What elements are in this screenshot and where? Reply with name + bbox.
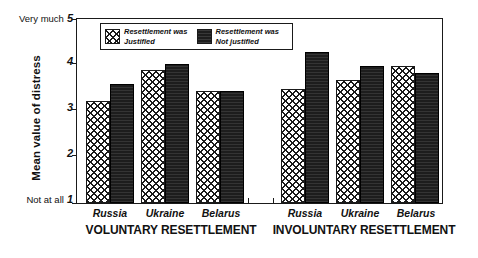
- x-label-involuntary-russia: Russia: [277, 207, 333, 219]
- y-tick-4-label: 4: [67, 55, 73, 67]
- legend-label-justified: Resettlement was Justified: [124, 27, 187, 46]
- x-label-involuntary-ukraine: Ukraine: [331, 207, 389, 219]
- group-label-voluntary: VOLUNTARY RESETTLEMENT: [60, 223, 282, 237]
- cross-hatch-swatch-icon: [105, 29, 120, 44]
- y-tick-2-label: 2: [67, 147, 73, 159]
- bar-voluntary-belarus-not-justified: [220, 91, 244, 203]
- bar-voluntary-russia-not-justified: [110, 84, 134, 203]
- tickmark-1: [72, 203, 77, 204]
- y-tick-1: Not at all1: [0, 193, 73, 205]
- x-label-involuntary-belarus: Belarus: [387, 207, 445, 219]
- y-axis-high-caption: Very much: [19, 13, 67, 24]
- tickmark-4: [72, 63, 77, 64]
- solid-black-swatch-icon: [197, 29, 212, 44]
- bar-involuntary-belarus-not-justified: [415, 73, 439, 203]
- y-axis-tick-labels: Very much5 4 3 2 Not at all1: [0, 0, 73, 258]
- y-tick-5: Very much5: [0, 12, 73, 24]
- x-separator-tick-left: [248, 198, 249, 203]
- x-label-voluntary-ukraine: Ukraine: [136, 207, 194, 219]
- bar-voluntary-belarus-justified: [196, 91, 220, 203]
- bar-involuntary-ukraine-justified: [336, 80, 360, 203]
- chart-legend: Resettlement was Justified Resettlement …: [100, 23, 293, 50]
- tickmark-2: [72, 155, 77, 156]
- x-label-voluntary-belarus: Belarus: [192, 207, 250, 219]
- bar-chart-figure: Mean value of distress Very much5 4 3 2 …: [0, 0, 478, 258]
- y-tick-3: 3: [0, 101, 73, 113]
- bar-voluntary-ukraine-justified: [141, 70, 165, 203]
- tickmark-3: [72, 109, 77, 110]
- bar-voluntary-ukraine-not-justified: [165, 64, 189, 204]
- x-separator-tick-right: [273, 198, 274, 203]
- y-tick-5-label: 5: [67, 12, 73, 24]
- bar-involuntary-russia-not-justified: [305, 52, 329, 203]
- x-label-voluntary-russia: Russia: [82, 207, 138, 219]
- y-axis-low-caption: Not at all: [26, 194, 67, 205]
- bar-involuntary-belarus-justified: [391, 66, 415, 203]
- plot-area: Resettlement was Justified Resettlement …: [76, 18, 443, 204]
- y-tick-4: 4: [0, 55, 73, 67]
- tickmark-5: [72, 19, 77, 20]
- bar-involuntary-russia-justified: [281, 89, 305, 203]
- y-tick-2: 2: [0, 147, 73, 159]
- bar-involuntary-ukraine-not-justified: [360, 66, 384, 203]
- legend-label-not-justified: Resettlement was Not justified: [216, 27, 279, 46]
- legend-entry-justified: Resettlement was Justified: [105, 27, 197, 46]
- group-label-involuntary: INVOLUNTARY RESETTLEMENT: [250, 223, 478, 237]
- legend-entry-not-justified: Resettlement was Not justified: [197, 27, 289, 46]
- bar-voluntary-russia-justified: [86, 101, 110, 203]
- y-tick-3-label: 3: [67, 101, 73, 113]
